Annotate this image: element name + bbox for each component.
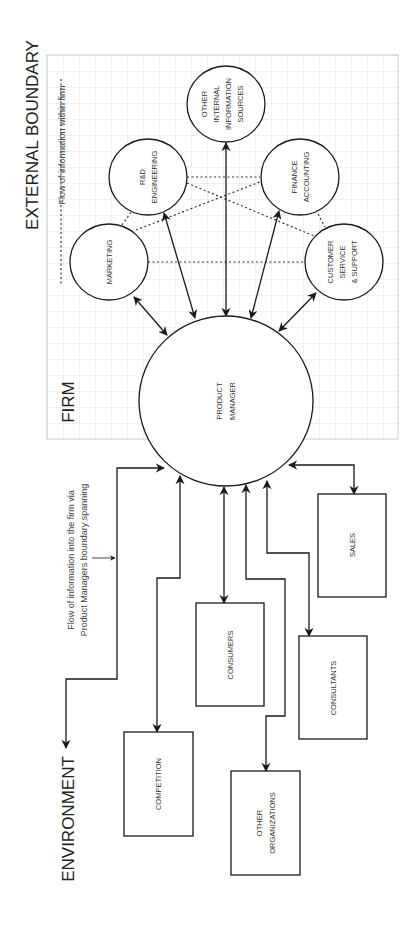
product-manager-node [139,316,313,486]
other-orgs-label-1: OTHER [255,809,264,836]
customer-service-label-3: & SUPPORT [350,240,359,284]
boundary-flow-note-line1: Flow of information into the firm via [66,490,76,630]
internal-flow-legend: Flow of information within firm [57,85,67,204]
diagram-canvas: EXTERNAL BOUNDARY FIRM ENVIRONMENT Flow … [0,0,417,931]
customer-service-label-2: SERVICE [338,246,347,279]
customer-service-label-1: CUSTOMER [326,240,335,283]
other-internal-label-1: OTHER [200,90,209,117]
sales-label: SALES [348,533,357,557]
external-boundary-title: EXTERNAL BOUNDARY [23,40,42,230]
consultants-label: CONSULTANTS [329,661,338,716]
product-manager-label-1: PRODUCT [215,382,224,420]
environment-title: ENVIRONMENT [59,756,78,882]
consumers-label: CONSUMERS [226,631,235,680]
other-internal-label-3: INFORMATION [224,78,233,130]
rd-label-1: R&D [138,169,147,185]
other-internal-label-4: SOURCES [236,85,245,122]
competition-label: COMPETITION [154,758,163,810]
rd-engineering-node [109,139,187,215]
firm-title: FIRM [59,381,78,423]
other-orgs-label-2: ORGANIZATIONS [268,792,277,854]
product-manager-label-2: MANAGER [228,381,237,420]
other-internal-label-2: INTERNAL [212,85,221,122]
boundary-flow-note-line2: Product Managers boundary spanning [79,484,89,637]
finance-label-2: ACCOUNTING [302,152,311,203]
marketing-label: MARKETING [105,240,114,285]
finance-accounting-node [261,139,339,215]
other-organizations-box [231,771,300,875]
finance-label-1: FINANCE [290,161,299,194]
rd-label-2: ENGINEERING [150,151,159,204]
